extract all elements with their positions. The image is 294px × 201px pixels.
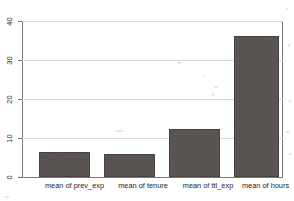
bar-tenure[interactable] (104, 154, 155, 177)
scan-speck (288, 44, 290, 47)
ytick-mark-40 (18, 21, 22, 22)
bar-hours[interactable] (234, 36, 279, 177)
ytick-mark-10 (18, 138, 22, 139)
ytick-label-0: 0 (5, 170, 14, 186)
ytick-label-10: 10 (5, 131, 14, 147)
ytick-mark-30 (18, 60, 22, 61)
scan-speck (5, 196, 9, 198)
scan-speck (289, 153, 291, 155)
bar-chart: 40 30 20 10 0 mean of prev_exp mean of t… (0, 0, 294, 201)
ytick-label-20: 20 (5, 92, 14, 108)
ytick-label-40: 40 (5, 14, 14, 30)
xtick-label-hours: mean of hours (213, 181, 294, 190)
ytick-mark-0 (18, 177, 22, 178)
bar-ttl-exp[interactable] (169, 129, 220, 177)
scan-speck (286, 131, 289, 133)
bar-prev-exp[interactable] (39, 152, 90, 177)
scan-speck (289, 100, 291, 102)
bars-layer (23, 22, 282, 177)
ytick-mark-20 (18, 99, 22, 100)
ytick-label-30: 30 (5, 53, 14, 69)
scan-speck (286, 8, 288, 10)
